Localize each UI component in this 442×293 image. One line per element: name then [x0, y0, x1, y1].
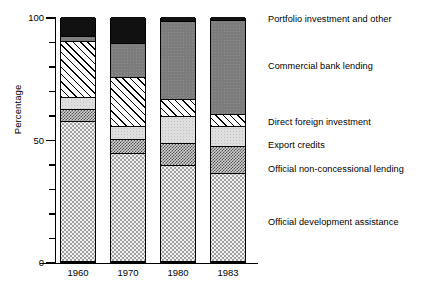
legend-label-export-credits: Export credits: [268, 140, 325, 150]
y-tick-60: [49, 115, 56, 116]
legend-label-official-development-assistance: Official development assistance: [268, 217, 399, 227]
segment-1960-commercial-bank-lending[interactable]: [61, 37, 95, 42]
bar-1983[interactable]: [210, 18, 246, 263]
bar-1980[interactable]: [160, 18, 196, 263]
segment-1983-official-development-assistance[interactable]: [211, 174, 245, 262]
y-tick-30: [49, 189, 56, 190]
y-tick-20: [49, 213, 56, 214]
segment-1960-export-credits[interactable]: [61, 98, 95, 110]
x-label-1983: 1983: [193, 267, 263, 278]
y-tick-50: [46, 140, 56, 141]
y-tick-0: [46, 262, 56, 263]
segment-1970-export-credits[interactable]: [111, 127, 145, 139]
segment-1960-portfolio-investment-and-other[interactable]: [61, 17, 95, 37]
y-tick-label-0: 0: [0, 257, 44, 268]
y-tick-label-50: 50: [0, 135, 44, 146]
segment-1980-export-credits[interactable]: [161, 117, 195, 144]
legend-label-official-non-concessional-lending: Official non-concessional lending: [268, 164, 404, 174]
segment-1970-portfolio-investment-and-other[interactable]: [111, 17, 145, 44]
legend-label-direct-foreign-investment: Direct foreign investment: [268, 117, 371, 127]
segment-1970-official-non-concessional-lending[interactable]: [111, 140, 145, 155]
y-tick-10: [49, 238, 56, 239]
y-tick-70: [49, 91, 56, 92]
segment-1960-official-development-assistance[interactable]: [61, 122, 95, 262]
segment-1970-official-development-assistance[interactable]: [111, 154, 145, 262]
segment-1960-official-non-concessional-lending[interactable]: [61, 110, 95, 122]
stacked-bar-chart: Percentage 050100 1960197019801983 Portf…: [0, 0, 442, 293]
segment-1983-official-non-concessional-lending[interactable]: [211, 147, 245, 174]
segment-1970-commercial-bank-lending[interactable]: [111, 44, 145, 78]
segment-1983-commercial-bank-lending[interactable]: [211, 21, 245, 115]
segment-1983-export-credits[interactable]: [211, 127, 245, 147]
legend-label-portfolio-investment-and-other: Portfolio investment and other: [268, 14, 392, 24]
y-tick-80: [49, 66, 56, 67]
y-tick-90: [49, 42, 56, 43]
segment-1980-official-development-assistance[interactable]: [161, 166, 195, 262]
segment-1980-commercial-bank-lending[interactable]: [161, 22, 195, 100]
segment-1970-direct-foreign-investment[interactable]: [111, 78, 145, 127]
bar-1960[interactable]: [60, 18, 96, 263]
segment-1960-direct-foreign-investment[interactable]: [61, 42, 95, 98]
x-axis-line: [40, 263, 258, 264]
legend-label-commercial-bank-lending: Commercial bank lending: [268, 61, 373, 71]
segment-1980-direct-foreign-investment[interactable]: [161, 100, 195, 117]
plot-area: [56, 18, 254, 263]
segment-1983-portfolio-investment-and-other[interactable]: [211, 17, 245, 21]
segment-1980-portfolio-investment-and-other[interactable]: [161, 17, 195, 22]
segment-1980-official-non-concessional-lending[interactable]: [161, 144, 195, 166]
y-tick-100: [46, 17, 56, 18]
segment-1983-direct-foreign-investment[interactable]: [211, 115, 245, 127]
y-tick-label-100: 100: [0, 12, 44, 23]
bar-1970[interactable]: [110, 18, 146, 263]
y-tick-40: [49, 164, 56, 165]
